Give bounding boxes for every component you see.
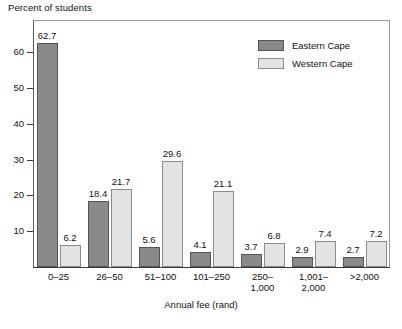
bar-value-label: 29.6 [155, 148, 190, 159]
bar-value-label: 7.4 [308, 228, 343, 239]
bar [241, 254, 262, 267]
bar [60, 245, 81, 267]
legend-item-western-cape: Western Cape [258, 56, 382, 71]
bar [264, 243, 285, 267]
bar [292, 257, 313, 267]
bar-value-label: 21.1 [206, 178, 241, 189]
bar [343, 257, 364, 267]
bar [139, 247, 160, 267]
x-axis-title: Annual fee (rand) [0, 299, 402, 310]
bar [190, 252, 211, 267]
x-category-label: >2,000 [335, 272, 395, 283]
legend-label-western-cape: Western Cape [292, 58, 353, 69]
legend-label-eastern-cape: Eastern Cape [292, 40, 350, 51]
bar [315, 241, 336, 267]
bar [366, 241, 387, 267]
bar [213, 191, 234, 267]
bar-value-label: 6.8 [257, 230, 292, 241]
bar [111, 189, 132, 267]
bar-value-label: 21.7 [104, 176, 139, 187]
bar-value-label: 7.2 [359, 228, 394, 239]
bar-value-label: 62.7 [30, 30, 65, 41]
bar-value-label: 6.2 [53, 232, 88, 243]
bar [162, 161, 183, 267]
legend-item-eastern-cape: Eastern Cape [258, 38, 382, 53]
legend-swatch-eastern-cape [258, 40, 284, 51]
bar-chart: Percent of students 102030405060 62.76.2… [0, 0, 402, 329]
bar [88, 201, 109, 267]
legend: Eastern Cape Western Cape [258, 38, 382, 74]
legend-swatch-western-cape [258, 58, 284, 69]
